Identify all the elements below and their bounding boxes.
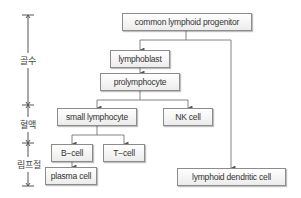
stage-label-lymph-node: 림프절 [17,157,41,172]
node-lymphoblast: lymphoblast [110,50,170,68]
node-common-lymphoid-progenitor: common lymphoid progenitor [122,13,252,31]
node-prolymphocyte: prolymphocyte [100,73,180,91]
node-plasma-cell: plasma cell [45,167,97,185]
stage-label-bone-marrow: 골수 [20,53,36,68]
node-b-cell: B−cell [51,144,93,162]
node-t-cell: T−cell [103,144,145,162]
node-small-lymphocyte: small lymphocyte [57,108,137,126]
node-lymphoid-dendritic-cell: lymphoid dendritic cell [177,168,286,186]
node-nk-cell: NK cell [163,108,213,126]
stage-label-blood: 혈액 [20,117,36,132]
